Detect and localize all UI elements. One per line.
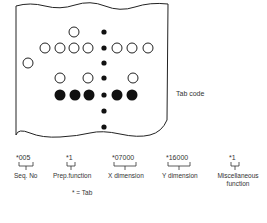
brackets bbox=[0, 0, 267, 223]
field-label-seq: Seq. No bbox=[14, 172, 38, 179]
field-label-misc: Miscellaneous function bbox=[213, 172, 263, 188]
field-label-x: X dimension bbox=[108, 172, 144, 179]
field-label-y: Y dimension bbox=[162, 172, 198, 179]
field-label-prep: Prep.function bbox=[53, 172, 91, 179]
tab-legend: * = Tab bbox=[72, 189, 92, 196]
